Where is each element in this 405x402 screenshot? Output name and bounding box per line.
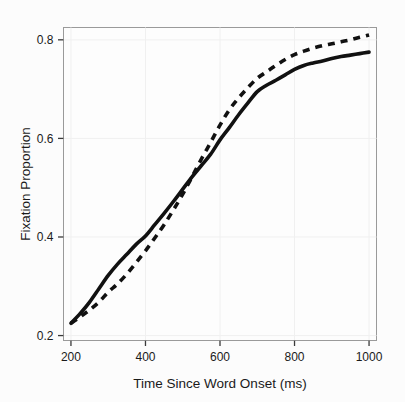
figure-container: 2004006008001000 0.20.40.60.8 Time Since… xyxy=(0,0,405,402)
y-tick-label: 0.2 xyxy=(37,329,54,343)
x-tick-label: 800 xyxy=(285,350,305,364)
fixation-proportion-line-chart: 2004006008001000 0.20.40.60.8 Time Since… xyxy=(0,0,405,402)
y-tick-label: 0.4 xyxy=(37,230,54,244)
x-tick-label: 1000 xyxy=(356,350,383,364)
x-axis-label: Time Since Word Onset (ms) xyxy=(133,376,306,391)
x-tick-label: 600 xyxy=(210,350,230,364)
y-tick-label: 0.8 xyxy=(37,33,54,47)
y-axis-label: Fixation Proportion xyxy=(18,127,33,240)
x-tick-label: 200 xyxy=(61,350,81,364)
x-tick-label: 400 xyxy=(135,350,155,364)
y-tick-label: 0.6 xyxy=(37,132,54,146)
